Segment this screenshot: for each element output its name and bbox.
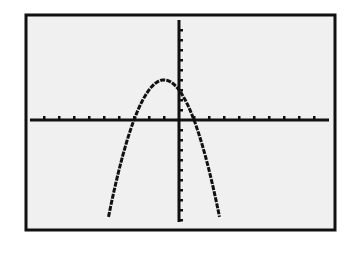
x-tick [58, 116, 61, 120]
x-tick [223, 116, 226, 120]
y-tick [179, 39, 183, 42]
x-tick [148, 116, 151, 120]
x-tick [238, 116, 241, 120]
y-tick [179, 179, 183, 182]
y-tick [179, 189, 183, 192]
y-tick [179, 169, 183, 172]
y-tick [179, 129, 183, 132]
x-tick [88, 116, 91, 120]
x-tick [118, 116, 121, 120]
x-tick [253, 116, 256, 120]
y-tick [179, 69, 183, 72]
y-tick [179, 29, 183, 32]
y-tick [179, 199, 183, 202]
x-tick [298, 116, 301, 120]
x-tick [43, 116, 46, 120]
y-tick [179, 79, 183, 82]
y-tick [179, 49, 183, 52]
x-tick [283, 116, 286, 120]
y-tick [179, 159, 183, 162]
y-tick [179, 139, 183, 142]
y-tick [179, 149, 183, 152]
y-tick [179, 59, 183, 62]
x-tick [268, 116, 271, 120]
x-tick [73, 116, 76, 120]
calculator-graph-screen [0, 0, 351, 254]
y-tick [179, 99, 183, 102]
y-tick [179, 219, 183, 222]
x-tick [313, 116, 316, 120]
x-tick [103, 116, 106, 120]
y-tick [179, 209, 183, 212]
x-tick [163, 116, 166, 120]
y-tick [179, 109, 183, 112]
x-tick [208, 116, 211, 120]
